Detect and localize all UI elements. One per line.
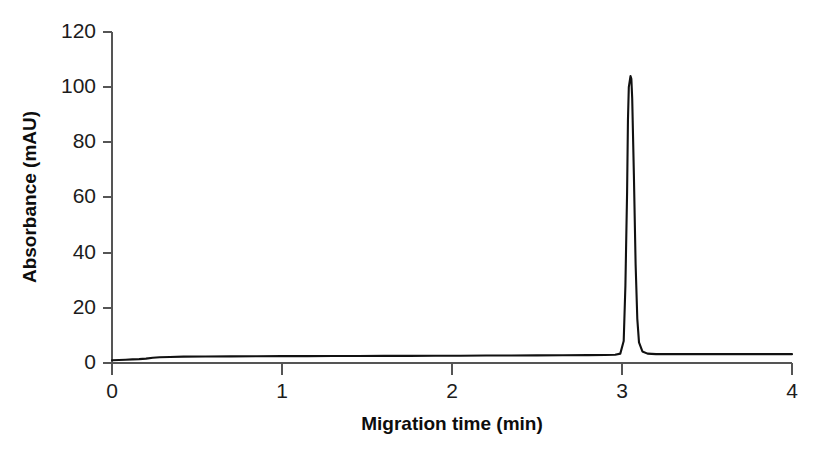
- x-tick-label-2: 2: [446, 379, 458, 402]
- x-tick-label-0: 0: [106, 379, 118, 402]
- y-axis-title: Absorbance (mAU): [19, 111, 40, 283]
- y-tick-label-100: 100: [61, 74, 96, 97]
- signal-trace: [112, 76, 792, 360]
- y-tick-label-60: 60: [73, 184, 96, 207]
- x-axis-title: Migration time (min): [361, 413, 543, 434]
- x-tick-label-1: 1: [276, 379, 288, 402]
- y-tick-label-20: 20: [73, 295, 96, 318]
- y-tick-label-40: 40: [73, 240, 96, 263]
- x-tick-label-3: 3: [616, 379, 628, 402]
- x-tick-label-4: 4: [786, 379, 798, 402]
- chart-figure: 120 100 80 60 40 20 0 0 1 2 3 4 Migratio…: [0, 0, 814, 449]
- y-axis-ticks: [103, 32, 112, 363]
- x-axis-ticks: [112, 363, 792, 375]
- y-tick-label-120: 120: [61, 19, 96, 42]
- y-tick-label-0: 0: [84, 350, 96, 373]
- electropherogram-chart: 120 100 80 60 40 20 0 0 1 2 3 4 Migratio…: [0, 0, 814, 449]
- y-tick-label-80: 80: [73, 129, 96, 152]
